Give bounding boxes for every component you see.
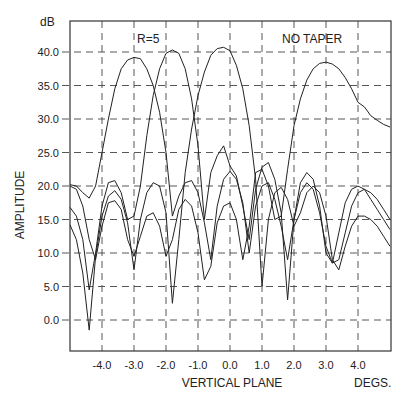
x-tick-label: -4.0	[93, 359, 112, 371]
x-axis-title: VERTICAL PLANE	[182, 376, 283, 390]
y-tick-label: 35.0	[38, 80, 59, 92]
x-tick-label: 3.0	[318, 359, 333, 371]
x-axis-ticks: -4.0-3.0-2.0-1.00.01.02.03.04.0	[93, 359, 366, 371]
x-tick-label: 1.0	[254, 359, 269, 371]
x-tick-label: -1.0	[189, 359, 208, 371]
beam-curve-1	[70, 57, 390, 263]
x-tick-label: 4.0	[350, 359, 365, 371]
y-tick-label: 15.0	[38, 214, 59, 226]
x-tick-label: 0.0	[222, 359, 237, 371]
y-tick-label: 20.0	[38, 180, 59, 192]
y-unit-label: dB	[40, 15, 55, 29]
x-tick-label: -2.0	[157, 359, 176, 371]
x-tick-label: 2.0	[286, 359, 301, 371]
x-tick-label: -3.0	[125, 359, 144, 371]
grid-lines	[62, 21, 391, 351]
y-tick-label: 0.0	[44, 314, 59, 326]
y-tick-label: 30.0	[38, 113, 59, 125]
annotation-no-taper: NO TAPER	[282, 32, 343, 46]
y-tick-label: 25.0	[38, 147, 59, 159]
y-tick-label: 5.0	[44, 281, 59, 293]
annotation-r-value: R=5	[137, 32, 160, 46]
y-axis-ticks: 0.05.010.015.020.025.030.035.040.0	[38, 46, 59, 326]
y-axis-title: AMPLITUDE	[13, 171, 27, 240]
y-tick-label: 40.0	[38, 46, 59, 58]
x-unit-label: DEGS.	[354, 376, 391, 390]
beam-pattern-chart: 0.05.010.015.020.025.030.035.040.0 -4.0-…	[0, 0, 404, 400]
y-tick-label: 10.0	[38, 247, 59, 259]
